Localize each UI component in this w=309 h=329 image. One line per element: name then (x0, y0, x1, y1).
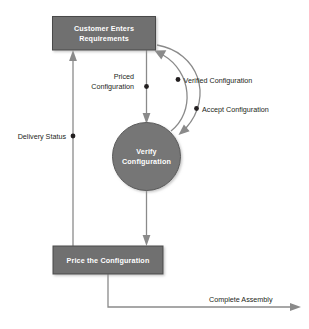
flow-label-verified-configuration-line1: Verified Configuration (184, 76, 253, 85)
node-verify-configuration[interactable]: Verify Configuration (113, 123, 181, 191)
node-label-customer-enters-requirements-line2: Requirements (79, 34, 129, 43)
flow-arrow-accept-configuration (157, 45, 200, 135)
junction-dot-verified-configuration (176, 77, 181, 82)
flow-label-priced-configuration-line1: Priced (114, 72, 134, 81)
junction-dot-delivery-status (71, 134, 76, 139)
node-label-price-the-configuration-line1: Price the Configuration (67, 256, 150, 265)
flow-label-complete-assembly: Complete Assembly (209, 295, 273, 304)
flow-label-priced-configuration-line2: Configuration (91, 82, 134, 91)
flow-label-delivery-status-line1: Delivery Status (18, 132, 67, 141)
flow-arrow-verify-to-price (143, 190, 151, 246)
flow-arrow-delivery-status (69, 50, 77, 246)
diagram-canvas: Customer Enters Requirements Verify Conf… (0, 0, 309, 329)
junction-dot-priced-configuration (144, 84, 149, 89)
node-label-verify-configuration-line1: Verify (136, 147, 156, 156)
flow-label-priced-configuration: Priced Configuration (91, 72, 149, 91)
node-label-verify-configuration-line2: Configuration (122, 157, 171, 166)
flow-arrow-complete-assembly (108, 274, 301, 311)
flow-label-verified-configuration: Verified Configuration (176, 76, 253, 85)
junction-dot-accept-configuration (194, 106, 199, 111)
flow-label-complete-assembly-line1: Complete Assembly (209, 295, 273, 304)
flow-label-delivery-status: Delivery Status (18, 132, 76, 141)
data-flow-diagram: Customer Enters Requirements Verify Conf… (0, 0, 309, 329)
flow-label-accept-configuration-line1: Accept Configuration (202, 105, 269, 114)
node-label-customer-enters-requirements-line1: Customer Enters (74, 24, 134, 33)
flow-label-accept-configuration: Accept Configuration (194, 105, 269, 114)
node-price-the-configuration[interactable]: Price the Configuration (53, 246, 163, 274)
node-customer-enters-requirements[interactable]: Customer Enters Requirements (53, 17, 156, 51)
flow-arrow-verified-configuration (155, 50, 188, 131)
